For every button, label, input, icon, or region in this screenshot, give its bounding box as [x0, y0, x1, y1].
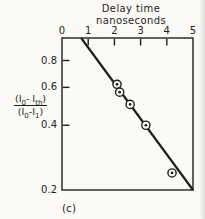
- y-label-den-text3: ): [39, 106, 43, 117]
- chart-figure: Delay time nanoseconds 012345 0.80.60.40…: [0, 0, 205, 219]
- x-tick-label: 2: [105, 25, 123, 36]
- data-point-center-dot: [118, 91, 121, 94]
- data-point-center-dot: [129, 103, 132, 106]
- y-tick-label: 0.6: [36, 81, 57, 93]
- figure-caption: (c): [56, 202, 82, 214]
- y-label-num-text3: ): [42, 93, 46, 104]
- data-point-center-dot: [144, 124, 147, 127]
- data-point-center-dot: [171, 172, 174, 175]
- fit-line: [81, 38, 193, 190]
- x-tick-label: 1: [79, 25, 97, 36]
- x-tick-label: 5: [184, 25, 202, 36]
- plot-border: [62, 38, 193, 190]
- y-axis-label-numerator: (I0- Ith): [14, 93, 47, 106]
- x-tick-label: 3: [132, 25, 150, 36]
- y-label-num-text2: - I: [26, 93, 35, 104]
- data-point-center-dot: [116, 83, 119, 86]
- y-axis-label-denominator: (I0-I1): [3, 106, 58, 117]
- y-tick-label: 0.2: [36, 184, 57, 196]
- x-tick-label: 4: [158, 25, 176, 36]
- y-tick-label: 0.8: [36, 55, 57, 67]
- y-axis-label: (I0- Ith) (I0-I1): [3, 93, 58, 117]
- y-tick-label: 0.4: [36, 119, 57, 131]
- x-tick-labels: 012345: [0, 25, 205, 37]
